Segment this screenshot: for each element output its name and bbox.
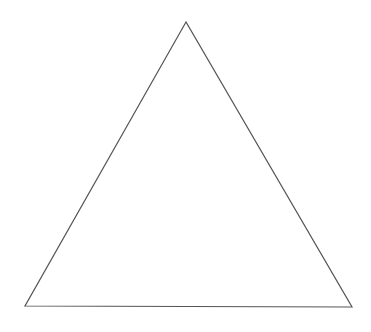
triangle-shape: [25, 22, 352, 307]
triangle-diagram: [0, 0, 371, 332]
diagram-canvas: [0, 0, 371, 332]
